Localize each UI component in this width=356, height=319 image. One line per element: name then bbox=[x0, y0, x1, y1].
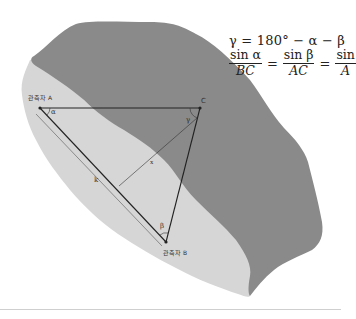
label-observer-a: 관측자 A bbox=[28, 93, 52, 102]
point-B bbox=[164, 240, 167, 243]
angle-sum-equation: γ = 180° − α − β bbox=[229, 34, 356, 47]
fraction-sin-beta: sin β AC bbox=[283, 49, 315, 77]
label-point-c: C bbox=[201, 97, 206, 105]
fraction-sin-alpha: sin α BC bbox=[229, 49, 262, 77]
label-alpha: α bbox=[51, 108, 56, 116]
denominator: A bbox=[341, 64, 350, 78]
equals-sign: = bbox=[319, 57, 330, 70]
label-height-x: x bbox=[150, 158, 153, 165]
label-observer-b: 관측자 B bbox=[163, 248, 187, 257]
point-A bbox=[38, 106, 41, 109]
law-of-sines-formula: γ = 180° − α − β sin α BC = sin β AC = s… bbox=[229, 34, 356, 77]
point-C bbox=[198, 106, 201, 109]
numerator: sin β bbox=[283, 49, 315, 64]
bottom-divider bbox=[0, 309, 341, 310]
label-beta: β bbox=[160, 222, 164, 230]
fraction-sin-gamma: sin A bbox=[335, 49, 355, 77]
denominator: AC bbox=[289, 64, 308, 78]
equals-sign: = bbox=[267, 57, 278, 70]
label-gamma: γ bbox=[186, 116, 190, 124]
numerator: sin α bbox=[229, 49, 262, 64]
label-baseline-k: k bbox=[94, 176, 98, 184]
numerator: sin bbox=[335, 49, 355, 64]
denominator: BC bbox=[236, 64, 255, 78]
sine-ratio-equation: sin α BC = sin β AC = sin A bbox=[229, 49, 356, 77]
